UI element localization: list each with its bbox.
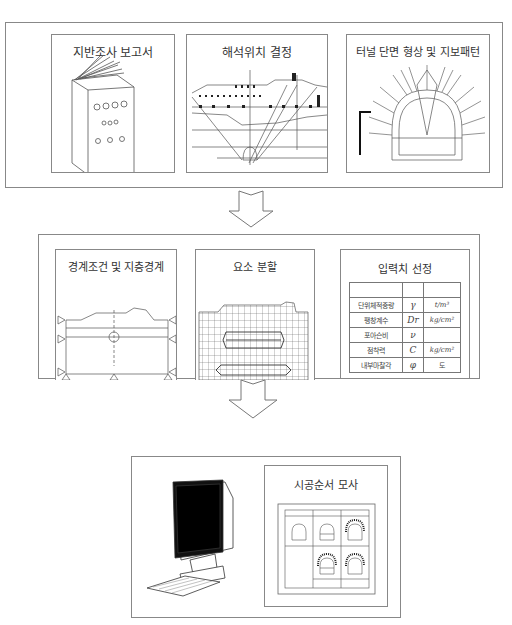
computer-icon bbox=[145, 478, 235, 598]
construction-sequence-icon bbox=[265, 466, 387, 606]
table-row: 단위체적중량γt/m³ bbox=[350, 298, 461, 313]
panel-title: 입력치 선정 bbox=[341, 260, 469, 276]
down-arrow-icon bbox=[225, 378, 281, 420]
panel-boundary-conditions: 경계조건 및 지층경계 bbox=[55, 249, 177, 380]
table-row bbox=[350, 283, 461, 298]
site-section-icon bbox=[187, 35, 327, 172]
panel-mesh-division: 요소 분할 bbox=[195, 249, 315, 380]
tunnel-section-icon bbox=[347, 35, 489, 172]
panel-ground-survey-report: 지반조사 보고서 bbox=[51, 34, 175, 173]
table-row: 팽창계수Drkg/cm² bbox=[350, 313, 461, 328]
panel-construction-sequence: 시공순서 모사 bbox=[264, 465, 388, 607]
panel-tunnel-section-support: 터널 단면 형상 및 지보패턴 bbox=[346, 34, 490, 173]
table-row: 점착력Ckg/cm² bbox=[350, 343, 461, 358]
book-icon bbox=[52, 35, 174, 172]
mesh-icon bbox=[196, 250, 314, 380]
boundary-condition-icon bbox=[56, 250, 176, 380]
panel-analysis-location: 해석위치 결정 bbox=[186, 34, 328, 173]
table-row: 포아슨비ν bbox=[350, 328, 461, 343]
table-row: 내부마찰각φ도 bbox=[350, 358, 461, 373]
down-arrow-icon bbox=[226, 189, 276, 229]
input-parameters-table: 단위체적중량γt/m³ 팽창계수Drkg/cm² 포아슨비ν 점착력Ckg/cm… bbox=[349, 282, 461, 373]
panel-input-values: 입력치 선정 단위체적중량γt/m³ 팽창계수Drkg/cm² 포아슨비ν 점착… bbox=[340, 249, 470, 379]
